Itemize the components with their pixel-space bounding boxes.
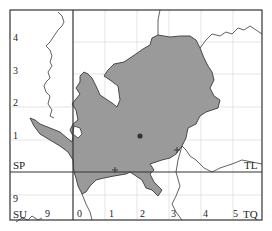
distribution-map: 4 3 2 1 9 9 0 1 2 3 4 5 SP TL SU TQ bbox=[0, 0, 272, 231]
x-tick-1: 1 bbox=[109, 208, 114, 219]
x-tick-4: 4 bbox=[203, 208, 208, 219]
x-tick-0: 0 bbox=[77, 208, 82, 219]
record-dot-marker bbox=[137, 133, 142, 138]
x-tick-9: 9 bbox=[45, 208, 50, 219]
y-tick-4: 4 bbox=[13, 32, 18, 43]
square-label-su: SU bbox=[13, 208, 27, 220]
square-label-tl: TL bbox=[244, 159, 258, 171]
square-label-tq: TQ bbox=[243, 208, 258, 220]
square-label-sp: SP bbox=[13, 159, 25, 171]
y-tick-2: 2 bbox=[13, 97, 18, 108]
x-tick-3: 3 bbox=[171, 208, 176, 219]
y-tick-9: 9 bbox=[13, 193, 18, 204]
x-tick-2: 2 bbox=[140, 208, 145, 219]
y-tick-1: 1 bbox=[13, 130, 18, 141]
y-tick-3: 3 bbox=[13, 65, 18, 76]
x-tick-5: 5 bbox=[233, 208, 238, 219]
